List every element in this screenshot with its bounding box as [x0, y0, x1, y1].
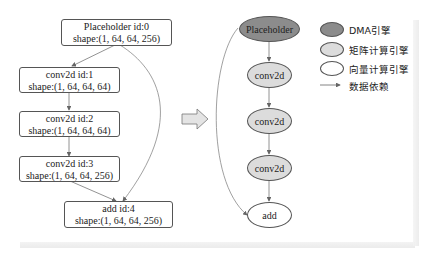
legend-item-vector: 向量计算引擎	[320, 61, 409, 76]
node-label: Placeholder	[246, 24, 293, 35]
legend-label: 数据依赖	[349, 79, 389, 93]
left-node-add-4: add id:4 shape:(1, 64, 64, 256)	[64, 201, 173, 228]
right-node-placeholder: Placeholder	[239, 16, 300, 42]
legend-label: DMA引擎	[349, 23, 391, 37]
node-shape: shape:(1, 64, 64, 64)	[20, 81, 119, 93]
left-node-conv2d-1: conv2d id:1 shape:(1, 64, 64, 64)	[19, 67, 120, 93]
node-title: add id:4	[65, 203, 172, 215]
node-shape: shape:(1, 64, 64, 64)	[20, 125, 119, 137]
edge-3-4	[70, 181, 116, 201]
left-node-placeholder: Placeholder id:0 shape:(1, 64, 64, 256)	[61, 19, 172, 46]
node-label: conv2d	[255, 163, 284, 174]
node-shape: shape:(1, 64, 64, 256)	[65, 215, 172, 227]
edge-0-4	[120, 45, 160, 201]
matrix-swatch-icon	[320, 42, 344, 57]
legend-item-matrix: 矩阵计算引擎	[320, 42, 409, 57]
legend-item-dma: DMA引擎	[320, 22, 391, 37]
diagram-canvas: Placeholder id:0 shape:(1, 64, 64, 256) …	[0, 0, 425, 254]
right-node-conv2d-3: conv2d	[247, 155, 292, 181]
edge-0-1	[72, 45, 115, 66]
node-shape: shape:(1, 64, 64, 256)	[20, 170, 119, 182]
node-title: conv2d id:2	[20, 113, 119, 125]
right-node-conv2d-2: conv2d	[247, 108, 292, 134]
legend-item-dependency: 数据依赖	[349, 79, 389, 93]
left-node-conv2d-2: conv2d id:2 shape:(1, 64, 64, 64)	[19, 111, 120, 137]
legend-label: 向量计算引擎	[349, 62, 409, 76]
node-title: Placeholder id:0	[62, 21, 171, 33]
node-label: conv2d	[255, 116, 284, 127]
node-title: conv2d id:1	[20, 69, 119, 81]
node-title: conv2d id:3	[20, 158, 119, 170]
node-label: conv2d	[255, 70, 284, 81]
right-node-conv2d-1: conv2d	[247, 62, 292, 88]
dma-swatch-icon	[320, 22, 344, 37]
hollow-right-arrow-icon	[182, 109, 208, 129]
node-label: add	[262, 210, 276, 221]
legend-label: 矩阵计算引擎	[349, 43, 409, 57]
left-node-conv2d-3: conv2d id:3 shape:(1, 64, 64, 256)	[19, 156, 120, 182]
edge-r-0-4	[216, 28, 247, 215]
node-shape: shape:(1, 64, 64, 256)	[62, 33, 171, 45]
right-node-add: add	[247, 202, 292, 228]
vector-swatch-icon	[320, 61, 344, 76]
